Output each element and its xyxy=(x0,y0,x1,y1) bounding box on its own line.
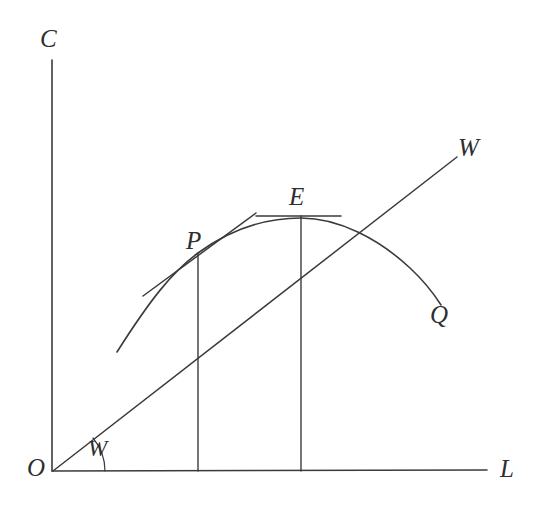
origin-label-o: O xyxy=(27,455,45,480)
axis-label-c: C xyxy=(40,26,57,51)
tangent-line-at-p xyxy=(143,213,256,296)
point-label-p: P xyxy=(186,228,201,253)
production-curve-path xyxy=(117,218,441,352)
axis-label-l: L xyxy=(500,456,514,481)
wage-ray-line xyxy=(53,157,457,471)
horizontal-axis-line xyxy=(52,470,487,471)
diagram-svg xyxy=(0,0,537,516)
curve-end-label-q: Q xyxy=(430,302,448,327)
figure-canvas: C L O W W P E Q xyxy=(0,0,537,516)
ray-end-label-w: W xyxy=(458,135,479,160)
point-label-e: E xyxy=(289,184,304,209)
angle-label-w: W xyxy=(88,437,107,460)
